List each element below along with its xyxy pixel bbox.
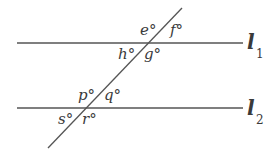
angle-h-label: h° — [118, 45, 135, 63]
parallel-lines-diagram: e° f° h° g° p° q° s° r° l 1 l 2 — [0, 0, 276, 155]
angle-g-label: g° — [144, 45, 161, 63]
angle-p-label: p° — [78, 86, 95, 104]
line-l2-letter: l — [247, 96, 255, 120]
angle-r-label: r° — [82, 110, 97, 128]
line-l1-letter: l — [247, 30, 255, 54]
line-l1-subscript: 1 — [256, 47, 264, 61]
angle-f-label: f° — [169, 21, 183, 39]
line-l2-label: l 2 — [247, 96, 264, 127]
line-l2-subscript: 2 — [256, 113, 264, 127]
angle-q-label: q° — [104, 86, 121, 104]
line-l1-label: l 1 — [247, 30, 264, 61]
angle-e-label: e° — [140, 21, 156, 39]
angle-s-label: s° — [58, 110, 73, 128]
